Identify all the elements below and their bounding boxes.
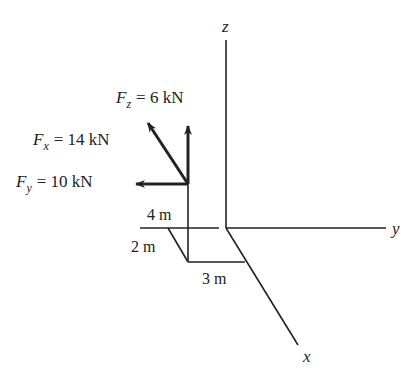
z-axis-label: z xyxy=(221,17,229,36)
force-x-subscript: x xyxy=(42,139,49,153)
force-z-symbol: F xyxy=(115,88,127,107)
dimension-4m: 4 m xyxy=(147,206,172,223)
force-vectors xyxy=(136,123,188,184)
force-x-value: = 14 kN xyxy=(54,130,110,149)
force-x-arrow xyxy=(148,123,188,184)
force-y-label: Fy= 10 kN xyxy=(15,172,93,195)
dimension-3m: 3 m xyxy=(202,270,227,287)
force-x-label: Fx= 14 kN xyxy=(32,130,110,153)
force-z-subscript: z xyxy=(125,97,131,111)
force-y-value: = 10 kN xyxy=(37,172,93,191)
force-diagram: z y x 4 m 2 m 3 m Fz= 6 kN Fx= 14 kN Fy=… xyxy=(0,0,417,389)
force-y-symbol: F xyxy=(15,172,27,191)
position-geometry xyxy=(140,184,245,262)
coordinate-axes xyxy=(226,40,386,345)
force-x-symbol: F xyxy=(32,130,44,149)
x-offset-diagonal xyxy=(168,228,188,262)
y-axis-label: y xyxy=(390,219,400,238)
force-z-value: = 6 kN xyxy=(136,88,183,107)
force-z-label: Fz= 6 kN xyxy=(115,88,183,111)
x-axis-label: x xyxy=(302,347,311,366)
force-y-subscript: y xyxy=(25,181,32,195)
x-axis xyxy=(226,228,298,345)
dimension-2m: 2 m xyxy=(131,238,156,255)
